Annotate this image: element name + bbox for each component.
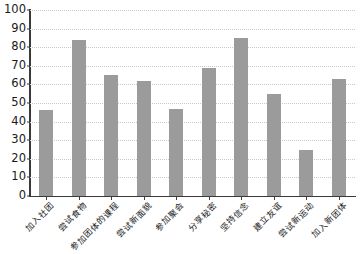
x-tick-mark	[241, 197, 242, 200]
x-tick-mark	[79, 197, 80, 200]
x-tick-mark	[111, 197, 112, 200]
x-axis-ticks	[0, 0, 362, 254]
x-tick-mark	[176, 197, 177, 200]
x-tick-mark	[46, 197, 47, 200]
x-tick-mark	[144, 197, 145, 200]
x-tick-mark	[274, 197, 275, 200]
x-tick-mark	[209, 197, 210, 200]
x-tick-mark	[339, 197, 340, 200]
x-tick-mark	[306, 197, 307, 200]
bar-chart: 0102030405060708090100 加入社团尝试食物参加团体的课程尝试…	[0, 0, 362, 254]
